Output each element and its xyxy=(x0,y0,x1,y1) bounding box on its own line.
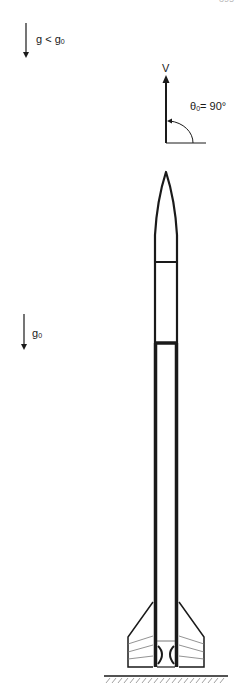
nozzle xyxy=(157,641,175,667)
nose-cone xyxy=(155,172,177,262)
rocket xyxy=(128,172,204,667)
gravity-lower-label: g0 xyxy=(32,327,42,342)
launch-angle-label: θ0= 90° xyxy=(190,100,226,115)
gravity-arrow-upper-icon xyxy=(23,23,29,58)
gravity-upper-label: g < g0 xyxy=(36,33,65,48)
gravity-arrow-lower-icon xyxy=(21,314,27,350)
velocity-label: V xyxy=(162,62,169,74)
ground-line xyxy=(104,676,228,683)
angle-arc-icon xyxy=(167,119,193,144)
